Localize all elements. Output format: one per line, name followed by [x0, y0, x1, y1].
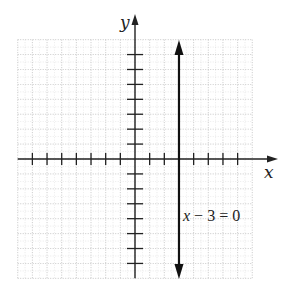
- line-arrow-down-icon: [174, 264, 183, 279]
- equation-var: x: [182, 207, 190, 224]
- line-arrow-up-icon: [174, 40, 183, 55]
- equation-label: x − 3 = 0: [182, 207, 240, 224]
- y-axis-arrow-icon: [132, 14, 139, 25]
- y-axis-label: y: [119, 12, 130, 32]
- coordinate-plane: x y x − 3 = 0: [0, 0, 283, 301]
- equation-rest: − 3 = 0: [190, 207, 240, 224]
- x-axis-label: x: [264, 162, 274, 182]
